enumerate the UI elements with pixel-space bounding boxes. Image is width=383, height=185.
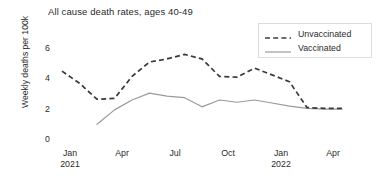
- legend-label-unvaccinated: Unvaccinated: [298, 29, 351, 39]
- chart-legend: Unvaccinated Vaccinated: [258, 23, 372, 58]
- legend-item-vaccinated[interactable]: Vaccinated: [265, 41, 341, 55]
- legend-item-unvaccinated[interactable]: Unvaccinated: [265, 27, 351, 41]
- chart-figure: All cause death rates, ages 40-49 Weekly…: [0, 0, 383, 185]
- legend-label-vaccinated: Vaccinated: [298, 43, 341, 53]
- legend-swatch-dashed-icon: [265, 29, 291, 39]
- series-line-vaccinated: [97, 93, 342, 124]
- series-line-unvaccinated: [62, 54, 342, 108]
- legend-swatch-solid-icon: [265, 43, 291, 53]
